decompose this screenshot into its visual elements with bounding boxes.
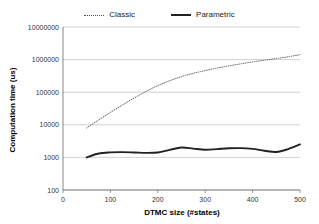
x-axis-title: DTMC size (#states) (144, 208, 220, 217)
svg-text:200: 200 (152, 196, 164, 203)
svg-text:300: 300 (199, 196, 211, 203)
svg-text:100000: 100000 (36, 89, 59, 96)
svg-text:500: 500 (294, 196, 306, 203)
plot-area: 100100010000100000100000010000000 010020… (0, 0, 319, 224)
svg-text:400: 400 (247, 196, 259, 203)
series-line-parametric (87, 144, 300, 157)
svg-text:10000: 10000 (40, 121, 60, 128)
svg-text:100: 100 (105, 196, 117, 203)
y-tick-labels: 100100010000100000100000010000000 (28, 24, 59, 194)
chart-container: Classic Parametric 100100010000100000100… (0, 0, 319, 224)
svg-text:1000000: 1000000 (32, 56, 59, 63)
y-axis-title: Computation time (us) (8, 67, 17, 152)
svg-text:10000000: 10000000 (28, 24, 59, 31)
axis-lines (63, 27, 300, 190)
gridlines (63, 27, 300, 190)
series-line-classic (87, 55, 300, 128)
svg-text:100: 100 (47, 187, 59, 194)
svg-text:1000: 1000 (43, 154, 59, 161)
x-tick-labels: 0100200300400500 (61, 196, 306, 203)
svg-text:0: 0 (61, 196, 65, 203)
